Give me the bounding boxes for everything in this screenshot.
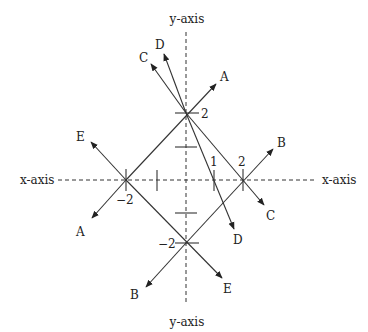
x-axis-label-left: x-axis	[20, 173, 55, 187]
y-axis-label-top: y-axis	[169, 12, 205, 26]
line-diagram: y-axis y-axis x-axis x-axis 2 −2 −2 2 1 …	[0, 0, 368, 332]
label-a-top: A	[219, 70, 229, 84]
line-e-lower	[126, 180, 222, 278]
line-d-upper	[164, 54, 186, 113]
label-a-bottom: A	[75, 225, 85, 239]
x-axis-label-right: x-axis	[322, 173, 357, 187]
label-d-top: D	[155, 38, 165, 52]
tick-label-x-1: 1	[210, 155, 218, 169]
tick-label-y-2: 2	[201, 107, 209, 121]
tick-label-x-2: 2	[238, 155, 246, 169]
line-c-upper	[151, 64, 186, 113]
label-d-bottom: D	[233, 233, 243, 247]
line-c-lower	[186, 113, 264, 205]
y-axis-label-bottom: y-axis	[169, 315, 205, 329]
tick-label-x-neg2: −2	[116, 193, 134, 207]
label-b-top: B	[277, 136, 286, 150]
label-e-top: E	[76, 130, 85, 144]
tick-label-y-neg2: −2	[158, 237, 176, 251]
label-b-bottom: B	[130, 288, 139, 302]
label-c-top: C	[139, 51, 148, 65]
line-d-lower	[186, 113, 234, 229]
line-e-upper	[91, 142, 126, 180]
line-b-upper	[186, 149, 273, 243]
label-c-bottom: C	[266, 209, 275, 223]
label-e-bottom: E	[223, 282, 232, 296]
